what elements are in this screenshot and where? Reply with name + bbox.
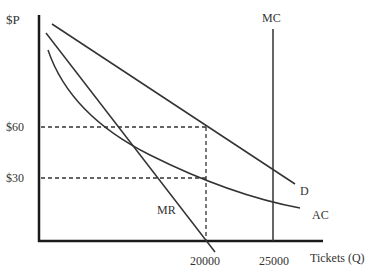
ac-label: AC bbox=[312, 208, 329, 222]
mr-label: MR bbox=[157, 203, 176, 217]
q-label-20000: 20000 bbox=[190, 254, 220, 268]
d-label: D bbox=[300, 184, 309, 198]
y-axis-label: $P bbox=[6, 12, 20, 27]
x-axis-label: Tickets (Q) bbox=[310, 251, 365, 265]
ac-curve bbox=[48, 50, 300, 208]
price-label-30: $30 bbox=[6, 171, 24, 185]
price-label-60: $60 bbox=[6, 120, 24, 134]
mr-curve bbox=[46, 33, 215, 252]
monopoly-diagram: $P $60 $30 20000 25000 Tickets (Q) MC D … bbox=[0, 0, 379, 275]
q-label-25000: 25000 bbox=[259, 254, 289, 268]
demand-curve bbox=[52, 24, 295, 184]
mc-label: MC bbox=[262, 11, 281, 25]
